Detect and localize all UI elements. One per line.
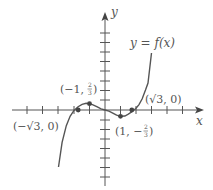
y-axis-label: y: [110, 5, 118, 19]
svg-text:): ): [93, 83, 97, 96]
svg-text:2: 2: [88, 81, 92, 88]
function-label: y = f(x): [129, 36, 175, 50]
label-local-max: (−1, 2 3 ): [60, 81, 97, 96]
svg-text:3: 3: [144, 131, 148, 138]
label-local-min: (1, − 2 3 ): [115, 123, 153, 138]
svg-text:2: 2: [144, 123, 148, 130]
point-root-left: [76, 108, 81, 113]
svg-text:(1, −: (1, −: [115, 125, 143, 138]
svg-text:(−1,: (−1,: [60, 83, 84, 96]
function-graph: y x y = f(x) (−√3, 0) (−1, 2 3 ) (1, − 2…: [0, 0, 213, 190]
point-local-min: [118, 114, 123, 119]
svg-text:3: 3: [88, 89, 92, 96]
point-local-max: [87, 101, 92, 106]
label-root-left: (−√3, 0): [13, 120, 59, 133]
svg-text:): ): [149, 125, 153, 138]
x-axis-label: x: [196, 114, 203, 128]
label-root-right: (√3, 0): [145, 93, 182, 106]
point-root-right: [129, 108, 134, 113]
